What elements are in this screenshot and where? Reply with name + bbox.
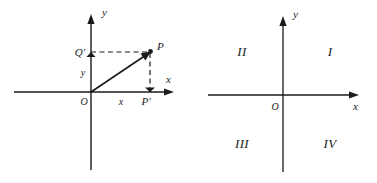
origin-label: O xyxy=(80,96,87,107)
figure-root: P P' Q' O x y x y x y O I II I xyxy=(0,0,377,183)
position-vector-line xyxy=(91,55,146,92)
y-axis-label: y xyxy=(101,6,107,18)
x-axis-arrowhead xyxy=(164,88,174,95)
x-axis-label: x xyxy=(165,73,171,85)
y-axis-arrowhead xyxy=(279,16,286,26)
quadrant-1-label: I xyxy=(327,44,333,59)
point-q-prime-label: Q' xyxy=(75,46,86,58)
quadrant-4-label: IV xyxy=(323,136,339,151)
x-component-label: x xyxy=(118,96,124,107)
x-axis-arrowhead xyxy=(349,91,359,98)
quadrants-diagram: x y O I II III IV xyxy=(190,0,377,183)
point-p-prime-label: P' xyxy=(140,95,151,107)
quadrant-2-label: II xyxy=(236,44,247,59)
vector-components-diagram: P P' Q' O x y x y xyxy=(0,0,190,183)
origin-label: O xyxy=(271,101,278,112)
q-prime-arrowhead xyxy=(87,52,96,57)
y-axis-arrowhead xyxy=(87,14,94,24)
x-axis-label: x xyxy=(352,100,358,112)
y-axis-label: y xyxy=(292,8,298,20)
y-component-label: y xyxy=(80,67,86,78)
point-p-label: P xyxy=(156,40,164,52)
point-p-marker xyxy=(148,49,153,54)
quadrant-3-label: III xyxy=(234,136,249,151)
